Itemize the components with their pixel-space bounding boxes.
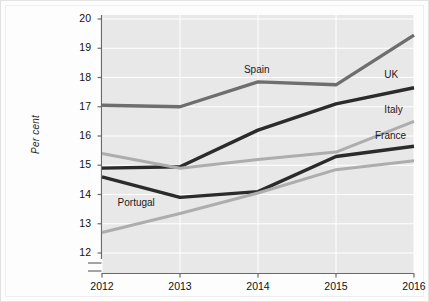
- y-tick-label: 14: [69, 188, 91, 200]
- line-chart-plot: [1, 1, 429, 302]
- x-tick-label: 2013: [160, 280, 200, 292]
- y-tick-label: 13: [69, 217, 91, 229]
- chart-figure: Per cent 121314151617181920 201220132014…: [0, 0, 429, 302]
- x-tick-label: 2014: [238, 280, 278, 292]
- series-label-spain: Spain: [244, 64, 270, 75]
- x-tick-label: 2016: [394, 280, 429, 292]
- y-tick-label: 12: [69, 246, 91, 258]
- x-tick-label: 2015: [316, 280, 356, 292]
- y-tick-label: 19: [69, 41, 91, 53]
- y-tick-label: 16: [69, 129, 91, 141]
- series-label-portugal: Portugal: [118, 197, 155, 208]
- series-label-italy: Italy: [384, 104, 402, 115]
- x-tick-label: 2012: [82, 280, 122, 292]
- series-label-uk: UK: [384, 69, 398, 80]
- y-tick-label: 18: [69, 71, 91, 83]
- y-tick-label: 15: [69, 158, 91, 170]
- series-label-france: France: [375, 130, 406, 141]
- y-tick-label: 17: [69, 100, 91, 112]
- y-tick-label: 20: [69, 12, 91, 24]
- axis-break-marker: [88, 263, 102, 271]
